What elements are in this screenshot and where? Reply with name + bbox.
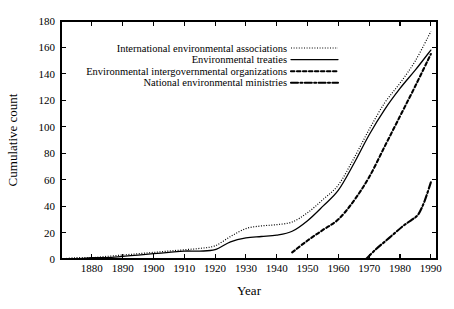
chart-legend: International environmental associations…: [86, 43, 338, 89]
y-tick-label: 180: [39, 15, 56, 27]
x-tick-label: 1920: [204, 262, 227, 274]
x-tick-label: 1970: [358, 262, 381, 274]
y-tick-label: 160: [39, 41, 56, 53]
legend-label-3: National environmental ministries: [144, 77, 287, 88]
chart-container: 1880189019001910192019301940195019601970…: [0, 0, 454, 309]
x-tick-label: 1950: [297, 262, 320, 274]
y-tick-label: 80: [44, 147, 56, 159]
y-tick-label: 0: [50, 253, 56, 265]
x-tick-label: 1980: [389, 262, 412, 274]
y-axis-title: Cumulative count: [5, 93, 20, 186]
x-tick-label: 1930: [235, 262, 258, 274]
x-tick-label: 1880: [81, 262, 104, 274]
y-tick-label: 20: [44, 227, 56, 239]
series-line-3: [366, 182, 431, 259]
y-axis-tick-labels: 020406080100120140160180: [39, 15, 56, 265]
x-axis-tick-labels: 1880189019001910192019301940195019601970…: [81, 262, 443, 274]
series-line-2: [292, 54, 431, 252]
y-tick-label: 120: [39, 94, 56, 106]
x-tick-label: 1990: [420, 262, 443, 274]
y-tick-label: 100: [39, 121, 56, 133]
x-tick-label: 1890: [112, 262, 135, 274]
x-tick-label: 1940: [266, 262, 289, 274]
x-axis-title: Year: [237, 283, 262, 298]
y-tick-label: 140: [39, 68, 56, 80]
y-tick-label: 40: [44, 200, 56, 212]
legend-label-2: Environmental intergovernmental organiza…: [86, 66, 287, 77]
x-tick-label: 1960: [327, 262, 350, 274]
y-tick-label: 60: [44, 174, 56, 186]
legend-label-1: Environmental treaties: [192, 54, 287, 65]
x-tick-label: 1900: [142, 262, 165, 274]
environmental-institutions-line-chart: 1880189019001910192019301940195019601970…: [0, 0, 454, 309]
x-tick-label: 1910: [173, 262, 196, 274]
legend-label-0: International environmental associations: [117, 43, 287, 54]
